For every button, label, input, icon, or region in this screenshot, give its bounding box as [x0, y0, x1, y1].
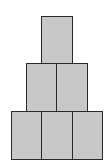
block-row1-1: [41, 16, 73, 64]
block-row3-2: [41, 111, 73, 160]
block-row2-2: [56, 63, 88, 112]
block-row2-1: [26, 63, 57, 112]
block-row3-1: [11, 111, 42, 160]
block-row3-3: [72, 111, 103, 160]
